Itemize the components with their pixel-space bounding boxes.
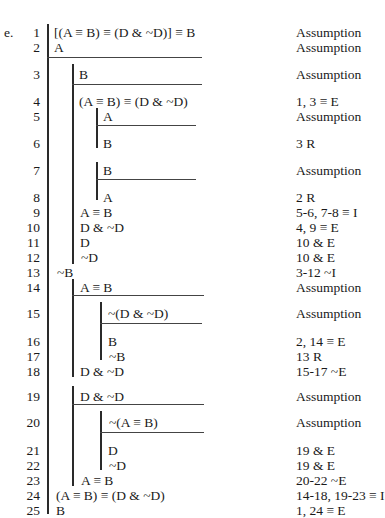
formula: ~D [109,458,126,473]
assumption-rule-15 [100,323,202,324]
line-number: 12 [20,250,40,265]
formula: B [56,503,65,518]
justification: Assumption [296,415,361,430]
formula: (A ≡ B) ≡ (D & ~D) [79,94,188,109]
formula: A ≡ B [80,280,112,295]
assumption-rule-7 [96,179,196,180]
line-number: 16 [20,334,40,349]
line-number: 23 [20,473,40,488]
assumption-rule-14 [72,295,204,296]
justification: 1, 3 ≡ E [296,94,339,109]
formula: (A ≡ B) ≡ (D & ~D) [56,488,165,503]
scope-bar-subproof-15-17 [100,302,102,360]
line-number: 25 [20,503,40,518]
line-number: 18 [20,364,40,379]
justification: 5-6, 7-8 ≡ I [296,205,358,220]
formula: D & ~D [80,389,124,404]
formula: ~(A ≡ B) [109,415,158,430]
formula: B [108,334,117,349]
scope-bar-subproof-19-23 [72,386,74,486]
justification: Assumption [296,25,361,40]
justification: 13 R [296,349,322,364]
line-number: 4 [20,94,40,109]
justification: 10 & E [296,250,335,265]
line-number: 22 [20,458,40,473]
justification: 20-22 ~E [296,473,346,488]
justification: Assumption [296,40,361,55]
formula: D & ~D [80,364,124,379]
formula: D [108,443,118,458]
formula: B [103,163,112,178]
scope-bar-main [47,24,49,514]
justification: 4, 9 ≡ E [296,220,339,235]
line-number: 13 [20,265,40,280]
justification: 1, 24 ≡ E [296,503,346,518]
line-number: 21 [20,443,40,458]
justification: 15-17 ~E [296,364,346,379]
line-number: 3 [20,67,40,82]
justification: 2 R [296,190,315,205]
assumption-rule-20 [100,432,204,433]
scope-bar-subproof-7-8 [96,162,98,200]
justification: Assumption [296,306,361,321]
line-number: 17 [20,349,40,364]
scope-bar-subproof-14-18 [72,279,74,377]
formula: B [79,67,88,82]
line-number: 19 [20,389,40,404]
line-number: 20 [20,415,40,430]
justification: Assumption [296,163,361,178]
formula: ~B [109,349,125,364]
line-number: 1 [20,25,40,40]
formula: ~D [81,250,98,265]
assumption-rule-19 [72,404,204,405]
assumption-rule-main [47,57,202,58]
formula: B [103,136,112,151]
formula: ~B [57,265,73,280]
line-number: 5 [20,109,40,124]
justification: Assumption [296,67,361,82]
justification: 3-12 ~I [296,265,336,280]
justification: Assumption [296,389,361,404]
formula: ~(D & ~D) [108,306,168,321]
line-number: 6 [20,136,40,151]
line-number: 9 [20,205,40,220]
justification: 19 & E [296,458,335,473]
line-number: 15 [20,306,40,321]
line-number: 2 [20,40,40,55]
formula: D & ~D [80,220,124,235]
formula: [(A ≡ B) ≡ (D & ~D)] ≡ B [54,25,195,40]
assumption-rule-3 [72,84,202,85]
justification: 19 & E [296,443,335,458]
assumption-rule-5 [96,125,196,126]
justification: 3 R [296,136,315,151]
justification: Assumption [296,109,361,124]
justification: 2, 14 ≡ E [296,334,346,349]
scope-bar-subproof-5-6 [96,108,98,148]
line-number: 14 [20,280,40,295]
formula: A ≡ B [80,205,112,220]
line-number: 24 [20,488,40,503]
scope-bar-subproof-20-22 [100,411,102,470]
formula: A ≡ B [81,473,113,488]
line-number: 7 [20,163,40,178]
scope-bar-subproof-3-12 [72,64,74,264]
justification: 14-18, 19-23 ≡ I [296,488,385,503]
line-number: 11 [20,235,40,250]
exercise-label: e. [4,25,13,40]
justification: 10 & E [296,235,335,250]
formula: A [103,190,113,205]
formula: A [54,40,64,55]
line-number: 8 [20,190,40,205]
line-number: 10 [20,220,40,235]
formula: D [80,235,90,250]
formula: A [103,109,113,124]
justification: Assumption [296,280,361,295]
